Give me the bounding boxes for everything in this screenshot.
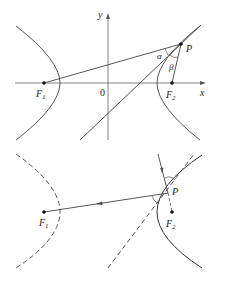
alpha-label: α [157,51,162,61]
f2-label: F2 [165,218,176,231]
reflected-ray-arrow-icon [96,202,103,206]
focus-f2-point [170,81,174,85]
point-p [179,42,183,46]
right-hyperbola-branch [157,155,202,268]
focus-f2-point [170,210,174,214]
p-label: P [185,43,192,54]
hyperbola-reflection-diagram: y x 0 F1 F2 P α β F1 F2 P [0,0,234,286]
f1-label: F1 [38,217,49,230]
upper-angle-arc [165,177,175,180]
y-axis-label: y [97,9,103,20]
f2-label: F2 [165,89,176,102]
origin-label: 0 [100,87,105,98]
x-axis-arrow-icon [200,81,206,85]
beta-label: β [168,62,174,72]
angle-beta-arc [170,55,178,58]
tangent-line-dashed [108,154,194,268]
focus-f1-point [42,210,46,214]
tangent-line [80,25,201,140]
f1-label: F1 [35,88,46,101]
top-figure: y x 0 F1 F2 P α β [15,9,206,140]
reflected-ray [44,193,168,212]
angle-alpha-arc [165,49,169,57]
y-axis-arrow-icon [106,13,110,19]
x-axis-label: x [199,87,205,98]
focus-f1-point [42,81,46,85]
p-label: P [171,186,178,197]
bottom-figure: F1 F2 P [16,154,202,268]
incoming-ray [158,154,168,193]
